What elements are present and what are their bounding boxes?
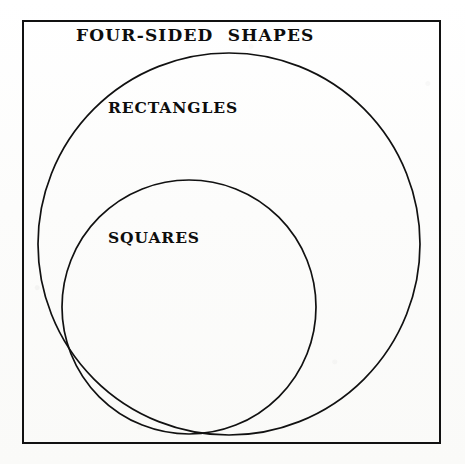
label-squares: SQUARES [108, 230, 200, 246]
label-rectangles: RECTANGLES [108, 100, 238, 116]
squares-circle [62, 180, 316, 434]
diagram-canvas: FOUR-SIDED SHAPES RECTANGLES SQUARES [0, 0, 465, 464]
euler-diagram-graphic [0, 0, 465, 464]
label-four-sided-shapes: FOUR-SIDED SHAPES [76, 27, 315, 44]
